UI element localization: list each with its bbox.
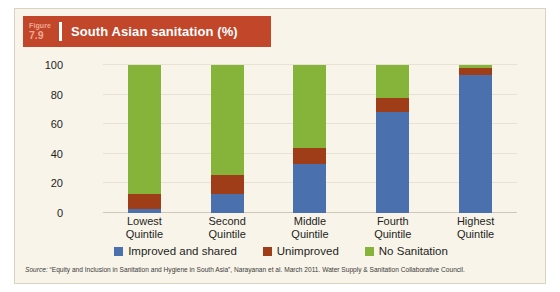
chart-legend: Improved and sharedUnimprovedNo Sanitati…: [15, 245, 547, 257]
bar-slot: [353, 65, 433, 213]
x-tick-label: MiddleQuintile: [270, 215, 350, 240]
bar-segment[interactable]: [293, 148, 326, 164]
y-tick-label: 20: [23, 177, 63, 189]
x-tick-label: LowestQuintile: [104, 215, 184, 240]
legend-item[interactable]: Unimproved: [263, 245, 339, 257]
bar-segment[interactable]: [459, 75, 492, 213]
bar-segment[interactable]: [376, 98, 409, 113]
bar-segment[interactable]: [376, 112, 409, 213]
figure-card: Figure 7.9 South Asian sanitation (%) 02…: [14, 8, 546, 284]
stacked-bar[interactable]: [459, 65, 492, 213]
bar-group: [103, 65, 517, 213]
bar-slot: [187, 65, 267, 213]
bar-slot: [270, 65, 350, 213]
bar-segment[interactable]: [211, 194, 244, 213]
legend-swatch: [263, 247, 272, 256]
bar-segment[interactable]: [211, 65, 244, 175]
legend-item[interactable]: Improved and shared: [114, 245, 237, 257]
legend-label: Improved and shared: [128, 245, 237, 257]
legend-swatch: [114, 247, 123, 256]
bar-segment[interactable]: [211, 175, 244, 194]
x-tick-label: FourthQuintile: [353, 215, 433, 240]
source-prefix: Source:: [25, 266, 48, 273]
y-tick-label: 80: [23, 89, 63, 101]
bar-segment[interactable]: [128, 209, 161, 213]
legend-swatch: [365, 247, 374, 256]
bar-segment[interactable]: [293, 164, 326, 213]
source-citation: “Equity and Inclusion in Sanitation and …: [50, 266, 465, 273]
legend-item[interactable]: No Sanitation: [365, 245, 448, 257]
bar-slot: [436, 65, 516, 213]
y-tick-label: 0: [23, 207, 63, 219]
source-note: Source: “Equity and Inclusion in Sanitat…: [15, 266, 547, 274]
plot-area: 020406080100: [103, 65, 517, 213]
figure-number-block: Figure 7.9: [23, 22, 59, 41]
bar-segment[interactable]: [293, 65, 326, 148]
bar-segment[interactable]: [459, 68, 492, 75]
figure-label-word: Figure: [29, 22, 59, 29]
y-tick-label: 100: [23, 59, 63, 71]
x-tick-label: HighestQuintile: [436, 215, 516, 240]
bar-segment[interactable]: [128, 65, 161, 194]
x-axis-tick-labels: LowestQuintileSecondQuintileMiddleQuinti…: [103, 215, 517, 240]
y-tick-label: 60: [23, 118, 63, 130]
legend-label: No Sanitation: [379, 245, 448, 257]
bar-segment[interactable]: [376, 65, 409, 98]
y-tick-label: 40: [23, 148, 63, 160]
figure-banner: Figure 7.9 South Asian sanitation (%): [23, 16, 271, 47]
banner-divider: [59, 22, 62, 41]
stacked-bar[interactable]: [211, 65, 244, 213]
stacked-bar[interactable]: [293, 65, 326, 213]
figure-number: 7.9: [29, 30, 59, 41]
stacked-bar[interactable]: [376, 65, 409, 213]
stacked-bar[interactable]: [128, 65, 161, 213]
x-tick-label: SecondQuintile: [187, 215, 267, 240]
chart-area: 020406080100 LowestQuintileSecondQuintil…: [15, 55, 547, 230]
bar-segment[interactable]: [128, 194, 161, 209]
bar-slot: [104, 65, 184, 213]
figure-title: South Asian sanitation (%): [71, 24, 238, 39]
legend-label: Unimproved: [277, 245, 339, 257]
